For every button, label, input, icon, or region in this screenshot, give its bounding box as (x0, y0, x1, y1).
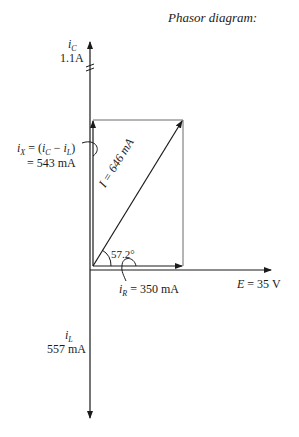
angle-arc (102, 250, 111, 266)
i-total-phasor (93, 121, 182, 266)
ic-value: 1.1A (60, 52, 84, 65)
ir-label: iR = 350 mA (119, 283, 179, 300)
il-value: 557 mA (47, 343, 86, 356)
ix-value: = 543 mA (27, 157, 76, 170)
e-label: E = 35 V (237, 278, 281, 291)
angle-label: 57.2° (111, 248, 135, 261)
phasor-diagram (0, 0, 299, 437)
